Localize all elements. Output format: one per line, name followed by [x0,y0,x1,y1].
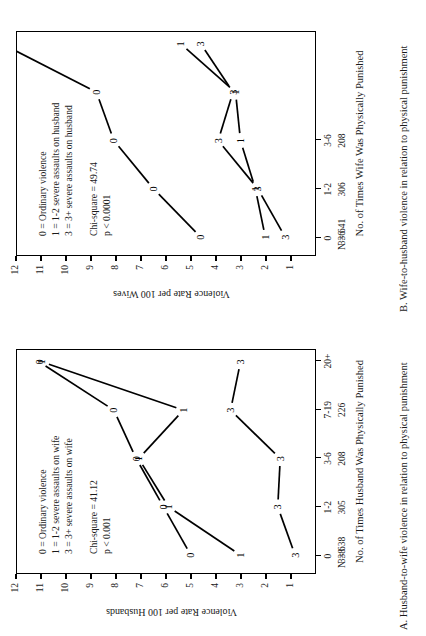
data-point-marker: 1 [36,359,47,364]
y-tick-label: 10 [61,261,71,275]
category-count: 226 [337,403,347,417]
y-axis-title-a: Violence Rate per 100 Husbands [62,607,282,618]
legend-item-1: 1 = 1-2 severe assaults on wife [49,436,62,554]
series-line-segment [167,513,187,548]
category-count: 306 [337,182,347,196]
legend-a: 0 = Ordinary violence 1 = 1-2 severe ass… [36,436,113,554]
data-point-marker: 1 [178,408,189,413]
x-tick-mark [316,457,321,458]
category-count: 305 [337,500,347,514]
y-tick-label: 4 [211,261,221,270]
legend-item-3: 3 = 3+ severe assaults on husband [62,103,75,236]
series-line-segment [119,146,149,183]
data-point-marker: 0 [148,186,159,191]
data-point-marker: 1 [235,553,246,558]
series-line-segment [143,465,165,501]
legend-item-1: 1 = 1-2 severe assaults on husband [49,103,62,236]
y-tick-label: 3 [236,579,246,588]
data-point-marker: 1 [235,138,246,143]
category-count: 336 [337,231,347,245]
data-point-marker: 1 [163,504,174,509]
y-tick-label: 8 [111,261,121,270]
series-line-segment [236,415,275,453]
category-count: 208 [337,133,347,147]
series-line-segment [280,514,292,548]
x-axis-b: N = 641 No. of Times Wife Was Physically… [316,31,386,256]
y-tick-label: 6 [161,579,171,588]
data-point-marker: 3 [228,90,239,95]
caption-b: B. Wife-to-husband violence in relation … [398,0,409,312]
y-tick-label: 9 [86,579,96,588]
category-count: 208 [337,451,347,465]
legend-item-0: 0 = Ordinary violence [36,103,49,236]
series-line-segment [232,369,239,403]
series-line-segment [257,196,264,230]
p-value-b: p < 0.0001 [100,103,113,236]
data-point-marker: 3 [252,186,263,191]
y-tick-label: 6 [161,261,171,270]
y-tick-label: 1 [286,579,296,588]
chi-square-b: Chi-square = 49.74 [87,103,100,236]
caption-a: A. Husband-to-wife violence in relation … [398,318,409,630]
series-line-segment [220,99,231,133]
y-axis-title-b: Violence Rate per 100 Wives [62,289,282,300]
x-axis-title-a: No. of Times Husband Was Physically Puni… [354,293,365,630]
series-line-segment [46,366,108,406]
y-tick-label: 1 [286,261,296,270]
data-point-marker: 0 [91,90,102,95]
y-tick-label: 3 [236,261,246,270]
y-tick-label: 7 [136,261,146,270]
data-point-marker: 1 [175,41,186,46]
x-tick-mark [316,188,321,189]
x-tick-label: 3-6 [323,134,333,147]
chi-square-a: Chi-square = 41.12 [87,436,100,554]
data-point-marker: 3 [225,408,236,413]
x-axis-title-b: No. of Times Wife Was Physically Punishe… [354,0,365,312]
series-line-segment [17,47,90,89]
x-tick-label: 7-19 [323,401,333,418]
series-line-segment [144,416,179,453]
y-tick-label: 5 [186,261,196,270]
data-point-marker: 1 [133,456,144,461]
y-tick-label: 2 [261,261,271,270]
x-tick-mark [316,237,321,238]
data-point-marker: 0 [108,408,119,413]
data-point-marker: 3 [290,553,301,558]
data-point-marker: 3 [195,41,206,46]
series-line-segment [117,417,133,452]
y-tick-label: 5 [186,579,196,588]
data-point-marker: 1 [260,235,271,240]
y-tick-label: 10 [61,579,71,593]
x-tick-mark [316,139,321,140]
x-tick-label: 20+ [323,354,333,369]
x-tick-label: 0 [323,236,333,241]
series-line-segment [236,100,239,134]
y-tick-label: 9 [86,261,96,270]
x-tick-mark [316,555,321,556]
data-point-marker: 3 [235,359,246,364]
data-point-marker: 3 [213,138,224,143]
x-tick-mark [316,360,321,361]
data-point-marker: 0 [185,553,196,558]
y-tick-label: 8 [111,579,121,588]
figure-container: Violence Rate per 100 Husbands 123456789… [0,0,426,636]
y-tick-label: 7 [136,579,146,588]
y-tick-label: 11 [36,579,46,592]
y-tick-label: 4 [211,579,221,588]
series-line-segment [140,465,160,500]
y-tick-label: 12 [11,579,21,593]
x-tick-label: 1-2 [323,501,333,514]
y-tick-label: 2 [261,579,271,588]
series-line-segment [49,364,176,408]
panel-b: Violence Rate per 100 Wives 123456789101… [0,0,426,318]
series-line-segment [262,195,282,230]
y-tick-label: 11 [36,261,46,274]
panel-a: Violence Rate per 100 Husbands 123456789… [0,318,426,636]
legend-item-0: 0 = Ordinary violence [36,436,49,554]
x-tick-label: 3-6 [323,452,333,465]
x-tick-mark [316,506,321,507]
data-point-marker: 3 [272,504,283,509]
y-axis-a: Violence Rate per 100 Husbands 123456789… [16,574,316,636]
data-point-marker: 0 [195,235,206,240]
p-value-a: p < 0.001 [100,436,113,554]
